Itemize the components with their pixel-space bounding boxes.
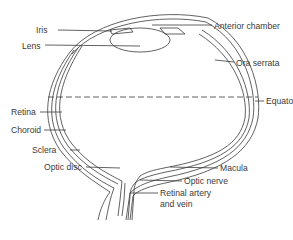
label-ora-serrata: Ora serrata xyxy=(236,58,279,68)
label-macula: Macula xyxy=(220,163,248,173)
label-retina: Retina xyxy=(11,107,36,117)
label-iris: Iris xyxy=(36,25,47,35)
label-optic-disc: Optic disc xyxy=(44,162,82,172)
label-anterior-chamber: Anterior chamber xyxy=(214,21,280,31)
label-optic-nerve: Optic nerve xyxy=(184,176,228,186)
label-choroid: Choroid xyxy=(11,125,41,135)
label-retinal-vessels-2: and vein xyxy=(160,199,193,209)
label-retinal-vessels-1: Retinal artery xyxy=(160,188,211,198)
lens xyxy=(110,28,170,52)
label-sclera: Sclera xyxy=(32,145,56,155)
label-equator: Equator xyxy=(266,96,293,106)
optic-nerve xyxy=(118,181,122,216)
label-lens: Lens xyxy=(22,41,41,51)
